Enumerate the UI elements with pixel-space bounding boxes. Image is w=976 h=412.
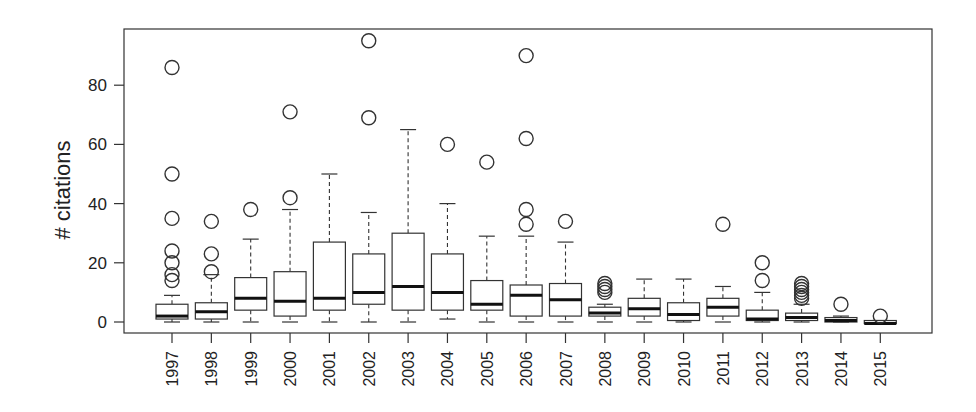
boxplot-chart: 020406080 199719981999200020012002200320…: [0, 0, 976, 412]
outlier-point: [362, 111, 376, 125]
box-2015: [864, 309, 896, 323]
x-tick-label: 2006: [518, 351, 535, 387]
x-tick-label: 1998: [203, 351, 220, 387]
outlier-point: [519, 131, 533, 145]
y-tick-label: 20: [88, 254, 107, 273]
y-axis-label: # citations: [50, 140, 75, 239]
x-tick-label: 2012: [754, 351, 771, 387]
outlier-point: [519, 203, 533, 217]
y-tick-label: 60: [88, 135, 107, 154]
box-2005: [471, 155, 503, 322]
box-2014: [825, 297, 857, 322]
x-tick-label: 2014: [833, 351, 850, 387]
box-2011: [707, 217, 739, 322]
x-tick-label: 2015: [872, 351, 889, 387]
outlier-point: [755, 256, 769, 270]
y-tick-label: 0: [98, 313, 107, 332]
outlier-point: [283, 191, 297, 205]
x-tick-label: 2005: [479, 351, 496, 387]
box-2006: [510, 49, 542, 322]
box-2008: [589, 277, 621, 322]
x-tick-label: 2000: [282, 351, 299, 387]
outlier-point: [480, 155, 494, 169]
x-tick-label: 2007: [558, 351, 575, 387]
y-tick-label: 80: [88, 76, 107, 95]
box-2002: [353, 34, 385, 322]
box-2010: [668, 279, 700, 322]
x-tick-label: 2011: [715, 351, 732, 386]
boxes: [156, 34, 896, 324]
box-1997: [156, 60, 188, 322]
box-2000: [274, 105, 306, 322]
x-axis: 1997199819992000200120022003200420052006…: [164, 333, 889, 387]
outlier-point: [559, 214, 573, 228]
outlier-point: [165, 60, 179, 74]
outlier-point: [716, 217, 730, 231]
x-tick-label: 2013: [794, 351, 811, 387]
x-tick-label: 2010: [676, 351, 693, 387]
outlier-point: [204, 214, 218, 228]
box-1999: [235, 203, 267, 322]
outlier-point: [244, 203, 258, 217]
x-tick-label: 1997: [164, 351, 181, 387]
outlier-point: [519, 49, 533, 63]
x-tick-label: 2001: [321, 351, 338, 387]
box-2001: [313, 174, 345, 322]
outlier-point: [755, 274, 769, 288]
box-2003: [392, 130, 424, 322]
box-2009: [628, 279, 660, 322]
box-2004: [431, 137, 463, 319]
box-1998: [195, 214, 227, 322]
x-tick-label: 2002: [361, 351, 378, 387]
x-tick-label: 1999: [243, 351, 260, 387]
box-2007: [550, 214, 582, 322]
outlier-point: [204, 265, 218, 279]
y-axis: 020406080: [88, 76, 124, 332]
outlier-point: [204, 247, 218, 261]
x-tick-label: 2009: [636, 351, 653, 387]
y-tick-label: 40: [88, 195, 107, 214]
outlier-point: [165, 211, 179, 225]
outlier-point: [362, 34, 376, 48]
outlier-point: [440, 137, 454, 151]
box-2012: [746, 256, 778, 322]
x-tick-label: 2003: [400, 351, 417, 387]
outlier-point: [519, 217, 533, 231]
outlier-point: [165, 167, 179, 181]
outlier-point: [834, 297, 848, 311]
outlier-point: [283, 105, 297, 119]
box-2013: [786, 277, 818, 322]
x-tick-label: 2008: [597, 351, 614, 387]
x-tick-label: 2004: [439, 351, 456, 387]
